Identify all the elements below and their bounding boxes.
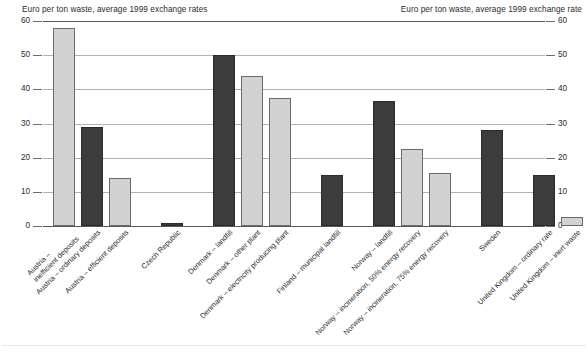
y-tick-label-left-60: 60 <box>21 17 30 25</box>
tick-mark-right-30 <box>546 124 555 125</box>
right-axis-caption: Euro per ton waste, average 1999 exchang… <box>401 5 582 14</box>
bar-chart: Euro per ton waste, average 1999 exchang… <box>0 0 588 352</box>
bar-7 <box>321 175 343 226</box>
tick-mark-right-50 <box>546 55 555 56</box>
bar-11 <box>481 130 503 226</box>
bar-0 <box>53 28 75 226</box>
bar-6 <box>269 98 291 226</box>
bar-1 <box>81 127 103 226</box>
tick-mark-right-60 <box>546 21 555 22</box>
bar-series <box>43 21 545 226</box>
bar-3 <box>161 223 183 226</box>
y-tick-label-left-20: 20 <box>21 154 30 162</box>
y-tick-label-left-50: 50 <box>21 51 30 59</box>
bar-13 <box>561 217 583 226</box>
bar-8 <box>373 101 395 226</box>
y-tick-label-right-40: 40 <box>558 85 567 93</box>
gridline-0 <box>43 226 545 227</box>
tick-mark-left-0 <box>33 226 42 227</box>
bar-12 <box>533 175 555 226</box>
left-axis-caption: Euro per ton waste, average 1999 exchang… <box>22 5 207 14</box>
y-tick-label-right-60: 60 <box>558 17 567 25</box>
y-tick-label-right-50: 50 <box>558 51 567 59</box>
bar-2 <box>109 178 131 226</box>
y-tick-label-left-30: 30 <box>21 120 30 128</box>
y-tick-label-right-30: 30 <box>558 120 567 128</box>
tick-mark-left-60 <box>33 21 42 22</box>
y-tick-label-left-40: 40 <box>21 85 30 93</box>
tick-mark-left-20 <box>33 158 42 159</box>
bar-9 <box>401 149 423 226</box>
tick-mark-right-20 <box>546 158 555 159</box>
category-label-10: Norway – incineration, 75% energy recove… <box>341 228 450 337</box>
bar-4 <box>213 55 235 226</box>
tick-mark-right-40 <box>546 89 555 90</box>
y-tick-label-right-10: 10 <box>558 188 567 196</box>
tick-mark-left-40 <box>33 89 42 90</box>
bottom-divider <box>2 345 586 346</box>
plot-area: 60605050404030302020101000 <box>43 21 545 226</box>
y-tick-label-right-20: 20 <box>558 154 567 162</box>
bar-5 <box>241 76 263 226</box>
category-label-3: Czech Republic <box>139 228 182 271</box>
bar-10 <box>429 173 451 226</box>
tick-mark-left-10 <box>33 192 42 193</box>
category-axis-labels: Austria –inefficient depositsAustria – o… <box>43 228 588 350</box>
tick-mark-left-30 <box>33 124 42 125</box>
y-tick-label-left-10: 10 <box>21 188 30 196</box>
y-tick-label-left-0: 0 <box>25 222 30 230</box>
category-label-11: Sweden <box>477 228 502 253</box>
tick-mark-left-50 <box>33 55 42 56</box>
